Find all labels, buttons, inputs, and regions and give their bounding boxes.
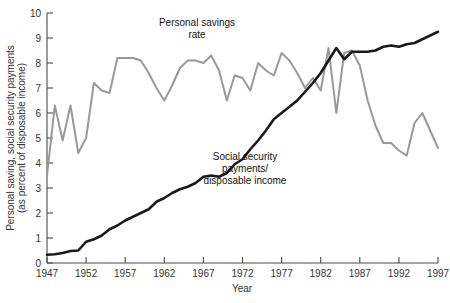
x-tick-label: 1952 [75,268,98,279]
y-axis-title-line2: (as percent of disposable income) [16,63,27,213]
y-tick-label: 10 [30,8,42,19]
y-axis-ticks: 012345678910 [30,8,53,269]
y-tick-label: 5 [35,133,41,144]
annotation-social-security: Social security payments/ disposable inc… [204,151,287,186]
x-tick-label: 1962 [153,268,176,279]
x-tick-label: 1982 [310,268,333,279]
y-tick-label: 9 [35,33,41,44]
y-tick-label: 6 [35,108,41,119]
x-axis-ticks: 1947195219571962196719721977198219871992… [36,257,450,279]
y-tick-label: 0 [35,258,41,269]
y-tick-label: 2 [35,208,41,219]
series-group [47,32,438,255]
x-tick-label: 1977 [270,268,293,279]
x-tick-label: 1972 [231,268,254,279]
y-tick-label: 4 [35,158,41,169]
y-tick-label: 3 [35,183,41,194]
x-tick-label: 1947 [36,268,59,279]
x-tick-label: 1992 [388,268,411,279]
annotation-savings-line1: Personal savings [159,17,235,28]
annotation-socsec-line1: Social security [213,151,277,162]
axes-group [47,13,438,263]
y-axis-title: Personal saving, social security payment… [5,45,27,231]
line-chart-canvas: 012345678910 194719521957196219671972197… [0,0,450,303]
x-tick-label: 1987 [349,268,372,279]
x-axis-title: Year [232,283,253,294]
y-tick-label: 8 [35,58,41,69]
series-line-social-security-payments [47,32,438,255]
y-axis-title-line1: Personal saving, social security payment… [5,45,16,231]
annotation-socsec-line2: payments/ [222,163,268,174]
x-tick-label: 1957 [114,268,137,279]
annotation-personal-savings-rate: Personal savings rate [159,17,235,40]
chart-figure: 012345678910 194719521957196219671972197… [0,0,450,303]
x-tick-label: 1967 [192,268,215,279]
annotation-socsec-line3: disposable income [204,175,287,186]
x-tick-label: 1997 [427,268,450,279]
y-tick-label: 1 [35,233,41,244]
y-tick-label: 7 [35,83,41,94]
annotation-savings-line2: rate [188,29,206,40]
